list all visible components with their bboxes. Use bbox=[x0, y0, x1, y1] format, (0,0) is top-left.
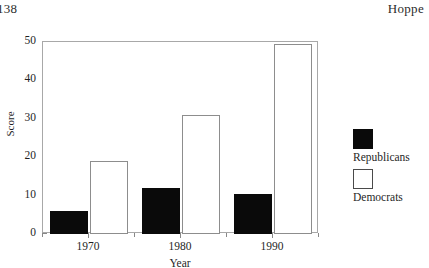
y-axis-tick-label: 40 bbox=[10, 73, 36, 85]
legend-swatch-republicans bbox=[353, 129, 373, 149]
bar-1970-republicans bbox=[50, 211, 88, 234]
y-axis-tick-label: 30 bbox=[10, 112, 36, 124]
x-axis-boundary-tick bbox=[318, 233, 319, 237]
x-axis-tick bbox=[272, 233, 273, 238]
x-axis-tick-label: 1990 bbox=[242, 241, 302, 253]
page-number: 138 bbox=[0, 1, 17, 17]
legend-label-republicans: Republicans bbox=[353, 151, 429, 163]
x-axis-tick bbox=[180, 233, 181, 238]
bar-1990-democrats bbox=[274, 44, 312, 234]
y-axis-label: Score bbox=[4, 94, 16, 154]
y-axis-tick-label: 20 bbox=[10, 150, 36, 162]
y-axis-tick-label: 50 bbox=[10, 35, 36, 47]
x-axis-label: Year bbox=[130, 257, 230, 268]
legend-entry-republicans: Republicans bbox=[353, 129, 429, 163]
x-axis-boundary-tick bbox=[134, 233, 135, 237]
header-author-name: Hoppe bbox=[388, 1, 424, 17]
plot-area bbox=[42, 41, 318, 233]
page-running-head: 138 Hoppe bbox=[0, 0, 429, 22]
bar-1980-democrats bbox=[182, 115, 220, 234]
legend-entry-democrats: Democrats bbox=[353, 169, 429, 203]
x-axis-tick-label: 1980 bbox=[150, 241, 210, 253]
bar-1990-republicans bbox=[234, 194, 272, 234]
bar-1970-democrats bbox=[90, 161, 128, 234]
bars-container bbox=[43, 42, 317, 232]
y-axis-tick-label: 0 bbox=[10, 227, 36, 239]
chart-legend: RepublicansDemocrats bbox=[353, 129, 429, 209]
y-axis-tick-label: 10 bbox=[10, 189, 36, 201]
x-axis-boundary-tick bbox=[42, 233, 43, 237]
x-axis-tick-label: 1970 bbox=[58, 241, 118, 253]
bar-1980-republicans bbox=[142, 188, 180, 234]
x-axis-tick bbox=[88, 233, 89, 238]
legend-label-democrats: Democrats bbox=[353, 191, 429, 203]
x-axis-boundary-tick bbox=[226, 233, 227, 237]
bar-chart-figure: Score 01020304050 197019801990 Year Repu… bbox=[0, 22, 429, 268]
legend-swatch-democrats bbox=[353, 169, 373, 189]
